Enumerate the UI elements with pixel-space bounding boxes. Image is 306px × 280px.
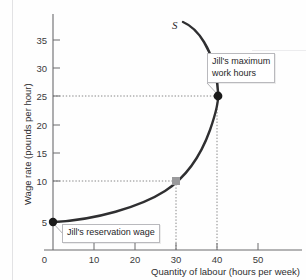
x-tick-label-10: 10	[89, 254, 100, 265]
y-tick-label-15: 15	[36, 148, 47, 159]
y-tick-label-5: 5	[42, 217, 47, 228]
x-tick-label-20: 20	[130, 254, 141, 265]
reservation-wage-callout: Jill's reservation wage	[62, 224, 160, 243]
callout-line-1: Jill's reservation wage	[67, 227, 155, 239]
y-tick-label-25: 25	[36, 91, 47, 102]
y-axis-tick-labels: 35 30 25 20 15 10 5 0	[36, 35, 47, 266]
x-tick-label-50: 50	[253, 254, 264, 265]
maximum-work-hours-callout: Jill's maximum work hours	[207, 53, 275, 83]
callout-line-1: Jill's maximum	[212, 56, 270, 68]
y-tick-label-30: 30	[36, 63, 47, 74]
x-axis-tick-labels: 10 20 30 40 50	[89, 254, 264, 265]
x-tick-label-40: 40	[212, 254, 223, 265]
mid-point-marker	[172, 177, 180, 185]
figure-container: 35 30 25 20 15 10 5 0 10 20 30 40 50 S	[0, 0, 306, 280]
callout-line-2: work hours	[212, 68, 270, 80]
y-axis-title: Wage rate (pounds per hour)	[22, 83, 33, 205]
callout-leader-lines	[53, 83, 219, 235]
x-tick-label-30: 30	[171, 254, 182, 265]
y-axis-ticks	[53, 40, 60, 222]
x-axis-title: Quantity of labour (hours per week)	[151, 266, 300, 277]
maximum-work-hours-point	[214, 92, 223, 101]
y-tick-label-10: 10	[36, 176, 47, 187]
y-tick-label-35: 35	[36, 35, 47, 46]
y-tick-label-0: 0	[42, 254, 47, 265]
supply-curve-s	[54, 22, 218, 222]
curve-label-s: S	[172, 19, 178, 31]
axes	[44, 14, 302, 250]
reservation-wage-point	[49, 218, 57, 226]
y-tick-label-20: 20	[36, 120, 47, 131]
x-axis-ticks	[94, 243, 258, 250]
